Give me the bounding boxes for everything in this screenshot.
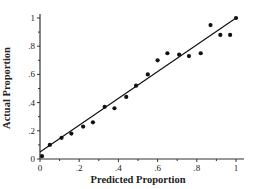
data-point (48, 143, 52, 147)
data-point (124, 95, 128, 99)
data-point (156, 58, 160, 62)
data-point (69, 132, 73, 136)
data-point (146, 72, 150, 76)
x-axis: 0.2.4.6.81 (38, 159, 244, 173)
data-point (134, 84, 138, 88)
data-point (81, 124, 85, 128)
y-tick-label: 0 (31, 154, 36, 164)
x-axis-title: Predicted Proportion (91, 174, 186, 185)
x-tick-label: .6 (154, 163, 161, 173)
data-point (208, 23, 212, 27)
y-axis: 0.2.4.6.81 (28, 13, 40, 164)
data-point (59, 136, 63, 140)
data-point (91, 120, 95, 124)
y-tick-label: .8 (28, 41, 35, 51)
y-tick-label: 1 (31, 13, 36, 23)
x-tick-label: 1 (234, 163, 239, 173)
data-point (199, 51, 203, 55)
x-tick-label: .8 (193, 163, 200, 173)
x-tick-label: .2 (76, 163, 83, 173)
data-point (234, 16, 238, 20)
data-point (177, 53, 181, 57)
x-tick-label: 0 (38, 163, 43, 173)
y-tick-label: .2 (28, 126, 35, 136)
y-tick-label: .4 (28, 98, 35, 108)
data-point (218, 33, 222, 37)
data-point (112, 106, 116, 110)
x-tick-label: .4 (115, 163, 122, 173)
y-tick-label: .6 (28, 69, 35, 79)
scatter-chart: 0.2.4.6.81 0.2.4.6.81 Predicted Proporti… (0, 0, 267, 189)
data-point (165, 51, 169, 55)
data-point (228, 33, 232, 37)
data-point (40, 154, 44, 158)
y-axis-title: Actual Proportion (1, 47, 12, 129)
data-point (103, 105, 107, 109)
data-point (187, 54, 191, 58)
